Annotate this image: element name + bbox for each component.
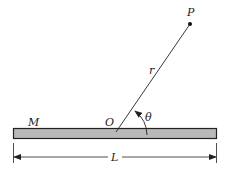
rod-point-diagram: P r θ M O L: [0, 0, 230, 175]
label-point: P: [186, 6, 195, 19]
label-angle: θ: [145, 111, 152, 124]
radius-line: [116, 24, 190, 132]
point-p-dot: [188, 22, 192, 26]
label-length: L: [110, 151, 118, 164]
label-radius: r: [149, 64, 155, 77]
label-mass: M: [27, 116, 40, 129]
label-origin: O: [105, 116, 114, 129]
rod: [14, 129, 217, 139]
